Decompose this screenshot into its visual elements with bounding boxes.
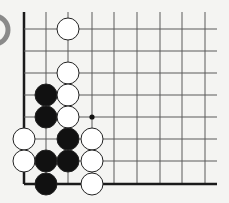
black-stone[interactable] — [35, 173, 57, 195]
point-marker-dot — [89, 114, 94, 119]
stones-layer — [13, 18, 103, 195]
white-stone[interactable] — [13, 128, 35, 150]
partial-stone — [0, 16, 8, 44]
white-stone[interactable] — [57, 106, 79, 128]
white-stone[interactable] — [57, 18, 79, 40]
white-stone[interactable] — [57, 84, 79, 106]
white-stone[interactable] — [81, 173, 103, 195]
partial-stone-edge — [0, 16, 8, 44]
white-stone[interactable] — [57, 62, 79, 84]
black-stone[interactable] — [35, 150, 57, 172]
black-stone[interactable] — [35, 106, 57, 128]
black-stone[interactable] — [57, 150, 79, 172]
markers-layer — [89, 114, 94, 119]
white-stone[interactable] — [13, 150, 35, 172]
black-stone[interactable] — [57, 128, 79, 150]
white-stone[interactable] — [81, 150, 103, 172]
go-board[interactable] — [0, 0, 229, 203]
black-stone[interactable] — [35, 84, 57, 106]
white-stone[interactable] — [81, 128, 103, 150]
